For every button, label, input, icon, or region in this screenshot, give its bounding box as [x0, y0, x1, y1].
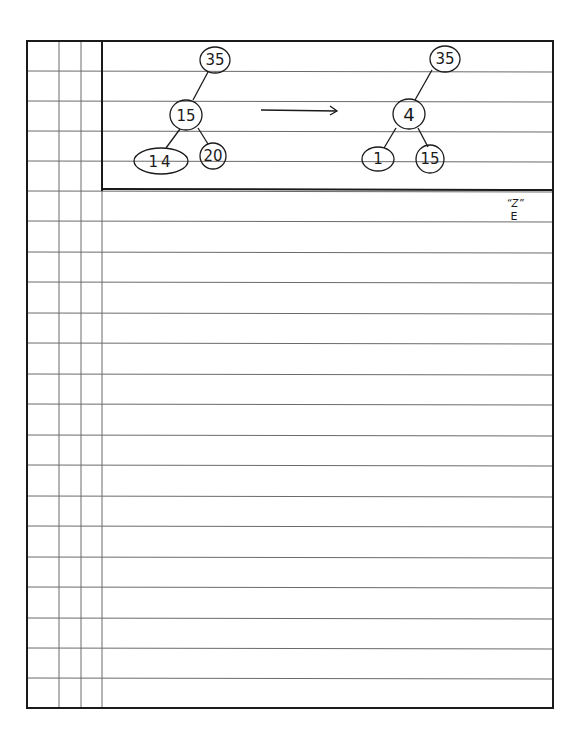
- annotation-bottom: E: [511, 210, 518, 223]
- before-root-node: 35: [205, 51, 224, 69]
- after-root-node: 35: [435, 50, 454, 68]
- after-right-leaf-node: 15: [420, 150, 439, 168]
- page-canvas: 35 15 14 20 35 4 1 15 “Z” E: [0, 0, 584, 750]
- before-child-node: 15: [176, 107, 195, 125]
- ruled-lines: [27, 71, 553, 679]
- annotation-top: “Z”: [506, 198, 524, 209]
- before-right-leaf-node: 20: [203, 147, 222, 165]
- transform-arrow-icon: [261, 106, 337, 115]
- after-left-leaf-node: 1: [373, 150, 383, 168]
- notebook-page: 35 15 14 20 35 4 1 15 “Z” E: [0, 0, 584, 750]
- before-left-leaf-node: 14: [148, 153, 173, 171]
- after-child-node: 4: [403, 104, 414, 125]
